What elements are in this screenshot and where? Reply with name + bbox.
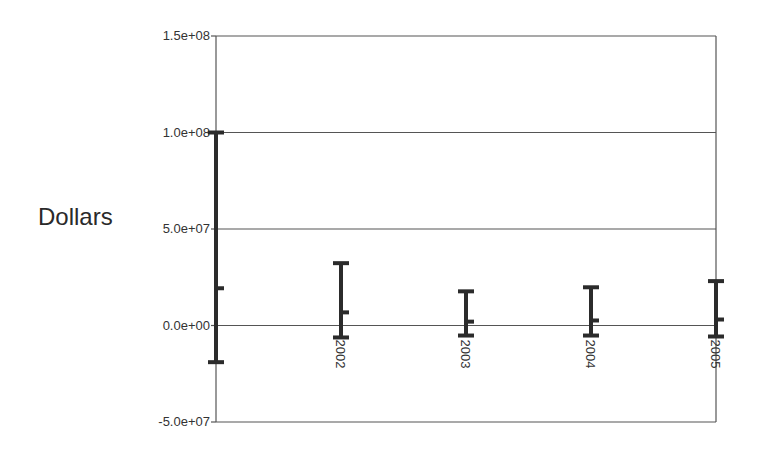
- y-tick-label: 1.0e+08: [163, 125, 210, 140]
- error-bar-chart: 1.5e+081.0e+085.0e+070.0e+00-5.0e+07 200…: [0, 0, 758, 453]
- error-bar: [208, 133, 224, 363]
- x-tick-label: 2005: [708, 340, 723, 369]
- x-tick-label: 2003: [458, 340, 473, 369]
- error-bar: [583, 287, 599, 335]
- x-axis-labels: 2002200320042005: [333, 340, 723, 369]
- y-tick-label: 5.0e+07: [163, 221, 210, 236]
- error-bars: [208, 133, 724, 363]
- y-tick-label: -5.0e+07: [158, 414, 210, 429]
- x-tick-label: 2002: [333, 340, 348, 369]
- y-tick-label: 1.5e+08: [163, 28, 210, 43]
- error-bar: [333, 263, 349, 337]
- x-tick-label: 2004: [583, 340, 598, 369]
- y-axis-ticks: 1.5e+081.0e+085.0e+070.0e+00-5.0e+07: [158, 28, 216, 429]
- error-bar: [708, 281, 724, 336]
- y-tick-label: 0.0e+00: [163, 318, 210, 333]
- error-bar: [458, 291, 474, 335]
